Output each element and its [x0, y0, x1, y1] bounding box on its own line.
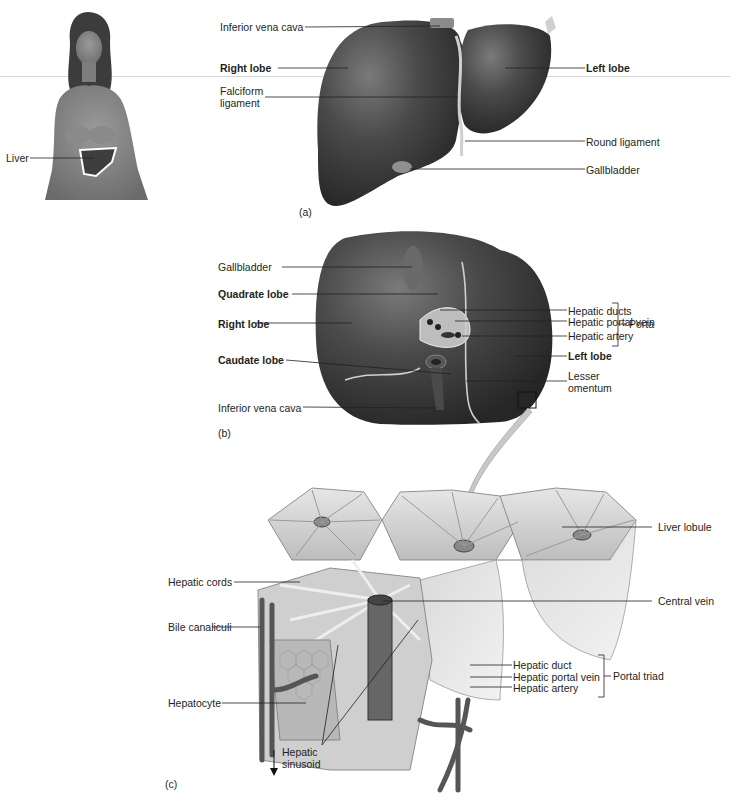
torso-inset [45, 12, 148, 200]
label-right-lobe-b: Right lobe [218, 318, 269, 330]
panel-tag-b: (b) [218, 427, 231, 439]
label-liver-inset: Liver [6, 152, 29, 164]
panel-tag-c: (c) [165, 778, 177, 790]
label-hepatic-sinusoid-2: sinusoid [282, 758, 321, 770]
liver-anterior [317, 16, 556, 206]
label-lesser-omentum-1: Lesser [568, 370, 600, 382]
label-gallbladder-a: Gallbladder [586, 164, 640, 176]
label-gallbladder-b: Gallbladder [218, 261, 272, 273]
label-porta: Porta [629, 318, 654, 330]
label-hepatic-cords: Hepatic cords [168, 576, 232, 588]
label-central-vein: Central vein [658, 595, 714, 607]
lobule-block [258, 488, 636, 790]
label-left-lobe-b: Left lobe [568, 350, 612, 362]
label-quadrate-lobe: Quadrate lobe [218, 288, 289, 300]
label-right-lobe-a: Right lobe [220, 62, 271, 74]
liver-inferior [316, 231, 553, 425]
label-hepatic-sinusoid-1: Hepatic [282, 746, 318, 758]
label-left-lobe-a: Left lobe [586, 62, 630, 74]
label-bile-canaliculi: Bile canaliculi [168, 621, 232, 633]
label-falciform-ligament-2: ligament [220, 97, 260, 109]
label-portal-triad: Portal triad [613, 670, 664, 682]
label-hepatic-duct: Hepatic duct [513, 659, 571, 671]
label-hepatocyte: Hepatocyte [168, 697, 221, 709]
label-caudate-lobe: Caudate lobe [218, 354, 284, 366]
label-falciform-ligament-1: Falciform [220, 85, 263, 97]
label-round-ligament: Round ligament [586, 136, 660, 148]
label-hepatic-artery-b: Hepatic artery [568, 330, 633, 342]
label-inferior-vena-cava-a: Inferior vena cava [220, 21, 303, 33]
label-liver-lobule: Liver lobule [658, 521, 712, 533]
label-lesser-omentum-2: omentum [568, 382, 612, 394]
label-hepatic-artery-c: Hepatic artery [513, 682, 578, 694]
label-inferior-vena-cava-b: Inferior vena cava [218, 402, 301, 414]
panel-tag-a: (a) [299, 206, 312, 218]
